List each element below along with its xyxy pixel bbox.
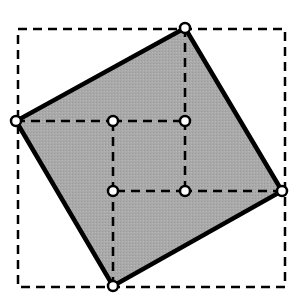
pythagorean-diagram bbox=[0, 0, 303, 301]
vertex-point-right bbox=[277, 186, 287, 196]
vertex-point-inner-top-right bbox=[180, 116, 190, 126]
vertex-point-left bbox=[11, 116, 21, 126]
vertex-point-inner-top-left bbox=[108, 116, 118, 126]
vertex-point-bottom bbox=[108, 281, 118, 291]
vertex-point-top bbox=[180, 23, 190, 33]
vertex-point-inner-bottom-right bbox=[180, 186, 190, 196]
vertex-point-inner-bottom-left bbox=[108, 186, 118, 196]
tilted-shaded-square bbox=[16, 28, 282, 286]
